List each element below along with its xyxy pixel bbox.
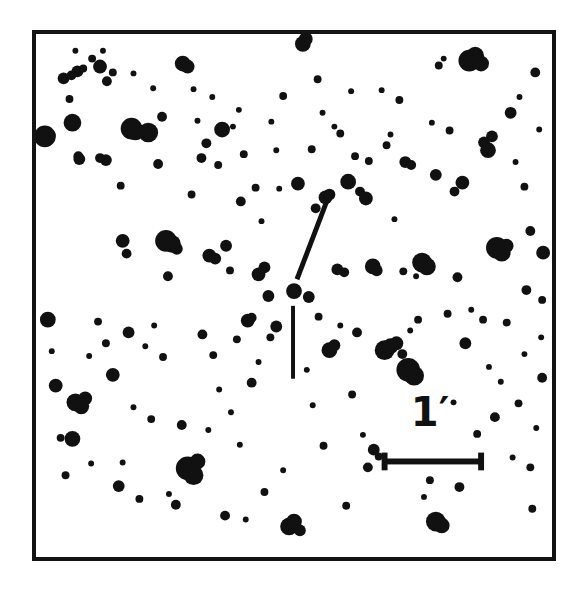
star-marker bbox=[72, 48, 78, 54]
star-marker bbox=[455, 176, 469, 190]
star-marker bbox=[500, 239, 514, 253]
star-marker bbox=[153, 159, 163, 169]
star-marker bbox=[515, 399, 523, 407]
star-marker bbox=[226, 266, 234, 274]
star-marker bbox=[209, 253, 221, 265]
star-marker bbox=[390, 336, 404, 350]
star-marker bbox=[42, 129, 56, 143]
star-marker bbox=[525, 226, 535, 236]
star-marker bbox=[243, 517, 249, 523]
star-marker bbox=[435, 62, 443, 70]
star-marker bbox=[259, 262, 271, 274]
star-marker bbox=[441, 56, 447, 62]
star-marker bbox=[190, 454, 206, 470]
star-marker bbox=[314, 75, 322, 83]
star-marker bbox=[486, 364, 492, 370]
star-marker bbox=[276, 186, 282, 192]
star-marker bbox=[520, 183, 528, 191]
star-marker bbox=[209, 351, 217, 359]
star-marker bbox=[371, 264, 383, 276]
star-marker bbox=[131, 404, 137, 410]
star-marker bbox=[181, 60, 195, 74]
star-marker bbox=[308, 145, 316, 153]
star-marker bbox=[116, 234, 130, 248]
star-marker bbox=[49, 379, 63, 393]
star-marker bbox=[262, 290, 274, 302]
star-marker bbox=[526, 463, 534, 471]
star-marker bbox=[78, 392, 92, 406]
star-marker bbox=[49, 348, 55, 354]
star-marker bbox=[490, 412, 500, 422]
star-marker bbox=[406, 160, 416, 170]
star-marker bbox=[150, 85, 156, 91]
star-marker bbox=[404, 366, 424, 386]
star-marker bbox=[151, 323, 157, 329]
star-marker bbox=[505, 107, 517, 119]
star-marker bbox=[426, 476, 434, 484]
star-marker bbox=[94, 318, 102, 326]
star-marker bbox=[304, 367, 310, 373]
star-marker bbox=[259, 218, 265, 224]
star-marker bbox=[379, 87, 385, 93]
star-marker bbox=[286, 283, 302, 299]
star-marker bbox=[418, 258, 436, 276]
star-field-canvas bbox=[36, 34, 552, 557]
star-marker bbox=[294, 524, 306, 536]
star-marker bbox=[395, 96, 403, 104]
star-marker bbox=[201, 138, 211, 148]
star-marker bbox=[480, 142, 496, 158]
star-marker bbox=[120, 459, 126, 465]
star-marker bbox=[510, 455, 516, 461]
star-marker bbox=[503, 319, 511, 327]
star-marker bbox=[102, 76, 112, 86]
star-marker bbox=[270, 321, 282, 333]
star-marker bbox=[214, 161, 222, 169]
star-marker bbox=[453, 272, 463, 282]
star-marker bbox=[479, 316, 487, 324]
star-marker bbox=[117, 182, 125, 190]
star-marker bbox=[166, 491, 172, 497]
star-marker bbox=[100, 48, 106, 54]
star-marker bbox=[66, 95, 74, 103]
star-marker bbox=[266, 333, 274, 341]
star-marker bbox=[498, 379, 504, 385]
star-marker bbox=[429, 120, 435, 126]
star-marker bbox=[363, 462, 373, 472]
star-marker bbox=[315, 313, 323, 321]
star-marker bbox=[113, 480, 125, 492]
star-marker bbox=[537, 373, 547, 383]
star-marker bbox=[65, 431, 81, 447]
star-marker bbox=[455, 482, 465, 492]
star-marker bbox=[342, 502, 350, 510]
star-marker bbox=[459, 337, 471, 349]
star-marker bbox=[320, 110, 326, 116]
chart-frame-border: 1′ bbox=[32, 30, 556, 561]
star-marker bbox=[177, 420, 187, 430]
star-marker bbox=[383, 141, 391, 149]
star-marker bbox=[171, 500, 181, 510]
star-marker bbox=[451, 399, 457, 405]
star-marker bbox=[450, 187, 460, 197]
star-marker bbox=[40, 312, 56, 328]
star-marker bbox=[240, 150, 248, 158]
star-marker bbox=[533, 425, 539, 431]
star-marker bbox=[331, 124, 337, 130]
star-marker bbox=[247, 378, 257, 388]
star-marker bbox=[291, 177, 305, 191]
star-marker bbox=[228, 409, 234, 415]
star-marker bbox=[252, 184, 260, 192]
star-marker bbox=[397, 349, 407, 359]
star-marker bbox=[414, 316, 422, 324]
star-marker bbox=[159, 353, 167, 361]
star-marker bbox=[391, 216, 397, 222]
star-marker bbox=[348, 88, 354, 94]
star-marker bbox=[247, 313, 257, 323]
star-marker bbox=[171, 243, 183, 255]
star-marker bbox=[430, 169, 442, 181]
scale-bar-label: 1′ bbox=[411, 392, 449, 432]
star-marker bbox=[303, 291, 315, 303]
star-marker bbox=[216, 387, 222, 393]
star-marker bbox=[142, 343, 148, 349]
star-marker bbox=[320, 442, 328, 450]
star-marker bbox=[233, 335, 241, 343]
